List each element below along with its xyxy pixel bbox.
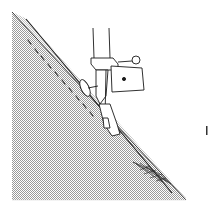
edge-mark: [206, 126, 208, 135]
sewing-illustration: [0, 0, 218, 204]
fabric-layer: [12, 12, 186, 200]
